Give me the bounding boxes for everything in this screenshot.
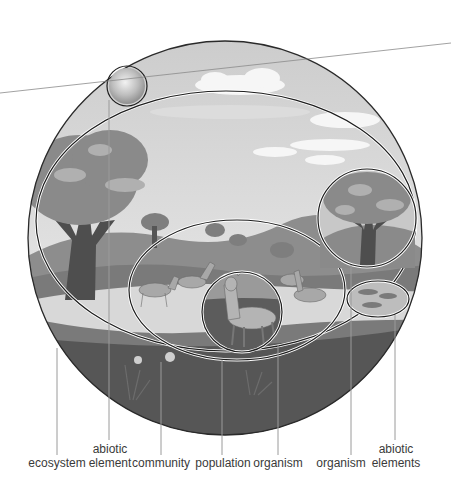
label-abiotic-elements: abiotic elements — [372, 442, 421, 470]
label-abiotic-elements-line1: abiotic — [372, 442, 421, 456]
label-abiotic-element-line2: element — [89, 456, 132, 470]
label-ecosystem: ecosystem — [28, 456, 85, 470]
label-abiotic-element: abiotic element — [89, 442, 132, 470]
label-organism-deer: organism — [253, 456, 302, 470]
sun-abiotic-element — [109, 68, 145, 104]
label-population: population — [195, 456, 250, 470]
label-abiotic-elements-line2: elements — [372, 456, 421, 470]
label-community: community — [132, 456, 190, 470]
label-abiotic-element-line1: abiotic — [89, 442, 132, 456]
ecology-diagram — [0, 0, 451, 489]
label-organism-tree: organism — [316, 456, 365, 470]
